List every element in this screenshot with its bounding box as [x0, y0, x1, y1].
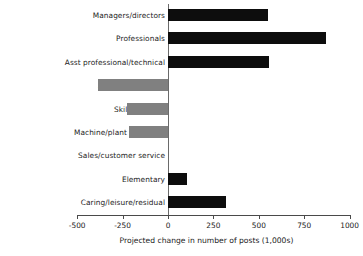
x-tick-label: -500 — [69, 221, 86, 230]
x-tick-label: 1000 — [340, 221, 359, 230]
x-tick-mark — [123, 215, 124, 219]
x-tick-label: 750 — [297, 221, 311, 230]
category-label: Asst professional/technical — [65, 57, 165, 66]
category-label: Caring/leisure/residual — [81, 198, 165, 207]
x-tick-label: 250 — [206, 221, 220, 230]
x-tick-mark — [168, 215, 169, 219]
x-tick-label: 0 — [166, 221, 171, 230]
bar-row: Professionals — [0, 27, 363, 49]
bar-row: Asst professional/technical — [0, 51, 363, 73]
x-tick-mark — [259, 215, 260, 219]
bar-positive — [168, 196, 226, 208]
x-tick-mark — [213, 215, 214, 219]
x-tick-label: -250 — [114, 221, 131, 230]
bar-positive — [168, 173, 187, 185]
bar-negative — [129, 126, 168, 138]
x-tick-mark — [304, 215, 305, 219]
bar-row: Sales/customer service — [0, 144, 363, 166]
bar-negative — [98, 79, 168, 91]
bar-row: Skilled trades — [0, 98, 363, 120]
bar-row: Machine/plant operative — [0, 121, 363, 143]
x-tick-label: 500 — [252, 221, 266, 230]
bar-row: Caring/leisure/residual — [0, 191, 363, 213]
bar-row: Managers/directors — [0, 4, 363, 26]
x-axis-title: Projected change in number of posts (1,0… — [0, 236, 363, 246]
category-label: Sales/customer service — [78, 151, 165, 160]
bar-negative — [127, 103, 168, 115]
category-label: Elementary — [122, 174, 165, 183]
bar-row: Elementary — [0, 168, 363, 190]
category-label: Managers/directors — [93, 11, 165, 20]
x-tick-mark — [77, 215, 78, 219]
bar-positive — [168, 56, 269, 68]
bar-positive — [168, 9, 268, 21]
bar-chart: Managers/directorsProfessionalsAsst prof… — [0, 0, 363, 256]
x-tick-mark — [350, 215, 351, 219]
category-label: Professionals — [116, 34, 165, 43]
bar-positive — [168, 32, 326, 44]
bar-row: Admin/Secretarial — [0, 74, 363, 96]
